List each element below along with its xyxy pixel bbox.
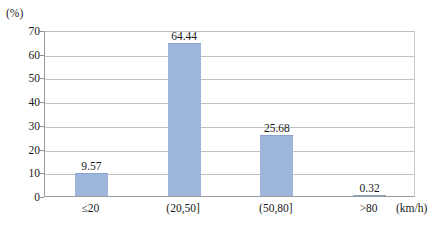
- gridline: [45, 79, 414, 80]
- x-axis-category-label: >80: [360, 201, 378, 215]
- bar: [260, 135, 293, 196]
- y-axis-tick-label: 40: [6, 96, 40, 108]
- y-axis-tick-label: 50: [6, 72, 40, 84]
- x-axis-category-label: (20,50]: [166, 201, 200, 215]
- gridline: [45, 56, 414, 57]
- x-axis-category-label: (50,80]: [259, 201, 293, 215]
- y-axis-tick-label: 20: [6, 144, 40, 156]
- y-axis-tick-label: 10: [6, 167, 40, 179]
- bar-value-label: 0.32: [360, 182, 380, 194]
- y-axis-tick-mark: [40, 197, 44, 198]
- bar: [75, 173, 108, 196]
- y-axis-unit-label: (%): [6, 7, 23, 20]
- bar: [168, 43, 201, 196]
- gridline: [45, 151, 414, 152]
- y-axis-tick-label: 70: [6, 25, 40, 37]
- gridline: [45, 127, 414, 128]
- x-axis-category-label: ≤20: [81, 201, 99, 215]
- y-axis-tick-label: 30: [6, 120, 40, 132]
- bar-chart: (%) 010203040506070 9.5764.4425.680.32 ≤…: [0, 0, 447, 235]
- x-axis-unit-label: (km/h): [396, 201, 427, 215]
- x-axis-category-labels: ≤20(20,50](50,80]>80: [44, 201, 415, 219]
- y-axis-tick-labels: 010203040506070: [0, 31, 40, 197]
- bar-value-label: 9.57: [81, 160, 101, 172]
- bar-value-label: 25.68: [264, 122, 290, 134]
- gridline: [45, 103, 414, 104]
- bar: [353, 195, 386, 196]
- y-axis-tick-label: 60: [6, 49, 40, 61]
- bar-value-label: 64.44: [171, 30, 197, 42]
- y-axis-tick-label: 0: [6, 191, 40, 203]
- plot-area: 9.5764.4425.680.32: [44, 31, 415, 197]
